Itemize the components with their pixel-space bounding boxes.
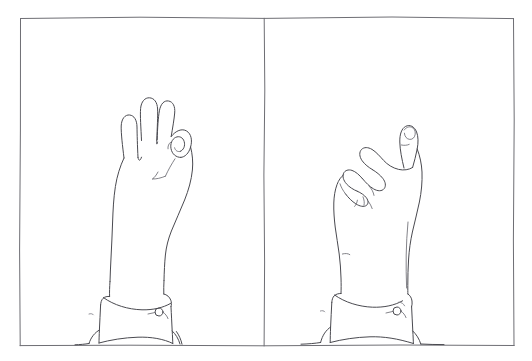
hand-gesture-drawing [0,0,532,361]
right-sleeve-right-hem [421,344,444,345]
illustration-root: Two-panel hand gesture line drawing left… [0,0,532,361]
frame-right-edge [513,19,514,346]
paper-background [0,0,532,361]
